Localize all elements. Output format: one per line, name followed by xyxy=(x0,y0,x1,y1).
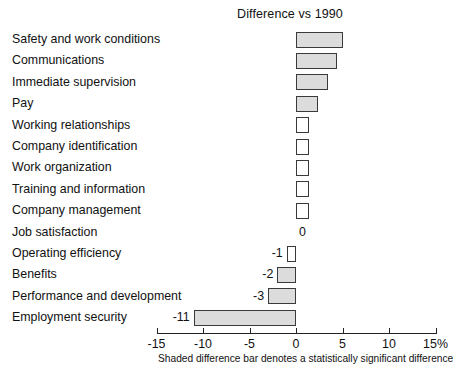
x-axis-line xyxy=(158,333,437,334)
chart-row: Company management xyxy=(0,200,460,221)
bar-value-label: -1 xyxy=(272,243,283,264)
bar xyxy=(296,117,309,133)
category-label: Training and information xyxy=(12,179,252,200)
chart-row: Employment security-11 xyxy=(0,307,460,328)
category-label: Benefits xyxy=(12,264,252,285)
category-label: Company management xyxy=(12,200,252,221)
chart-row: Job satisfaction0 xyxy=(0,222,460,243)
chart-row: Company identification xyxy=(0,136,460,157)
axis-tick-label: 15% xyxy=(423,337,448,351)
chart-row: Benefits-2 xyxy=(0,264,460,285)
chart-row: Pay xyxy=(0,93,460,114)
bar xyxy=(296,203,309,219)
bar-value-label: -2 xyxy=(262,264,273,285)
chart-row: Training and information xyxy=(0,179,460,200)
chart-row: Safety and work conditions xyxy=(0,29,460,50)
category-label: Work organization xyxy=(12,157,252,178)
bar xyxy=(296,32,343,48)
axis-tick xyxy=(389,328,390,334)
bar xyxy=(296,181,309,197)
chart-row: Communications xyxy=(0,50,460,71)
difference-vs-1990-chart: Difference vs 1990 Safety and work condi… xyxy=(0,0,460,383)
chart-row: Working relationships xyxy=(0,115,460,136)
bar xyxy=(268,288,296,304)
bar xyxy=(277,267,296,283)
bar xyxy=(296,139,309,155)
chart-row: Operating efficiency-1 xyxy=(0,243,460,264)
category-label: Company identification xyxy=(12,136,252,157)
axis-tick-label: -5 xyxy=(244,337,255,351)
bar xyxy=(296,74,328,90)
category-label: Immediate supervision xyxy=(12,72,252,93)
bar xyxy=(296,53,337,69)
category-label: Safety and work conditions xyxy=(12,29,252,50)
bar xyxy=(194,310,296,326)
category-label: Job satisfaction xyxy=(12,222,252,243)
bar xyxy=(296,96,318,112)
chart-footnote: Shaded difference bar denotes a statisti… xyxy=(158,353,448,364)
category-label: Communications xyxy=(12,50,252,71)
category-label: Pay xyxy=(12,93,252,114)
axis-tick-label: -10 xyxy=(194,337,212,351)
bar xyxy=(296,160,309,176)
axis-tick xyxy=(203,328,204,334)
plot-area: Safety and work conditionsCommunications… xyxy=(0,0,460,383)
axis-tick xyxy=(157,328,158,334)
category-label: Working relationships xyxy=(12,115,252,136)
category-label: Performance and development xyxy=(12,286,252,307)
axis-tick-label: -15 xyxy=(148,337,166,351)
axis-tick-label: 5 xyxy=(339,337,346,351)
bar-value-label: -11 xyxy=(173,307,190,328)
axis-tick xyxy=(436,328,437,334)
category-label: Operating efficiency xyxy=(12,243,252,264)
bar xyxy=(287,246,296,262)
axis-tick-label: 0 xyxy=(293,337,300,351)
chart-row: Performance and development-3 xyxy=(0,286,460,307)
bar-value-label: 0 xyxy=(299,222,306,243)
bar-value-label: -3 xyxy=(253,286,264,307)
axis-tick xyxy=(343,328,344,334)
axis-tick xyxy=(296,328,297,334)
axis-tick-label: 10 xyxy=(382,337,396,351)
axis-tick xyxy=(250,328,251,334)
chart-row: Work organization xyxy=(0,157,460,178)
chart-row: Immediate supervision xyxy=(0,72,460,93)
